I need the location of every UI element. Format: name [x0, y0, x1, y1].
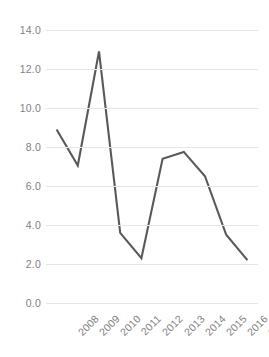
- x-tick-label: 2011: [139, 313, 163, 337]
- x-tick-label: 2008: [76, 313, 101, 338]
- gridline: [46, 264, 258, 265]
- x-tick-label: 2012: [160, 313, 185, 338]
- y-tick-label: 6.0: [1, 181, 41, 192]
- y-tick-label: 4.0: [1, 220, 41, 231]
- y-tick-label: 8.0: [1, 142, 41, 153]
- gridline: [46, 186, 258, 187]
- gridline: [46, 225, 258, 226]
- x-tick-label: 2013: [182, 313, 207, 338]
- gridline: [46, 108, 258, 109]
- y-tick-label: 10.0: [1, 103, 41, 114]
- y-tick-label: 14.0: [1, 25, 41, 36]
- y-tick-label: 0.0: [1, 298, 41, 309]
- x-tick-label: 2016: [245, 313, 269, 338]
- x-tick-label: 2017: [266, 313, 269, 338]
- gridline: [46, 69, 258, 70]
- y-tick-label: 12.0: [1, 64, 41, 75]
- x-tick-label: 2009: [97, 313, 122, 338]
- x-tick-label: 2010: [118, 313, 143, 338]
- plot-area: [46, 30, 258, 303]
- y-axis: 14.012.010.08.06.04.02.00.0: [0, 0, 41, 357]
- x-tick-label: 2014: [203, 313, 228, 338]
- x-axis: 2008200920102011201220132014201520162017: [46, 303, 258, 357]
- y-tick-label: 2.0: [1, 259, 41, 270]
- x-tick-label: 2015: [224, 313, 249, 338]
- series-line-group: [46, 30, 258, 303]
- line-chart: 14.012.010.08.06.04.02.00.0 200820092010…: [0, 0, 269, 357]
- gridline: [46, 147, 258, 148]
- series-1-line: [57, 51, 248, 260]
- gridline: [46, 30, 258, 31]
